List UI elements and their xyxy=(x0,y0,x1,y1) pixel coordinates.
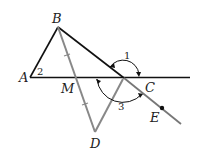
label-m: M xyxy=(60,81,75,96)
label-c: C xyxy=(145,80,155,95)
angle-3-arc xyxy=(97,79,142,102)
label-d: D xyxy=(89,136,101,151)
label-angle-3: 3 xyxy=(118,101,124,112)
angle-1-arrowhead-right xyxy=(136,72,141,77)
segment-ab xyxy=(30,27,58,78)
label-a: A xyxy=(18,70,28,85)
segment-bd xyxy=(58,27,95,132)
angle-3-arrowhead-left xyxy=(96,79,101,84)
point-e-dot xyxy=(160,106,164,110)
label-b: B xyxy=(51,11,62,26)
geometry-diagram: A B C M D E 1 2 3 xyxy=(0,0,199,157)
label-angle-2: 2 xyxy=(37,66,43,77)
label-angle-1: 1 xyxy=(124,50,130,61)
label-e: E xyxy=(149,110,160,125)
